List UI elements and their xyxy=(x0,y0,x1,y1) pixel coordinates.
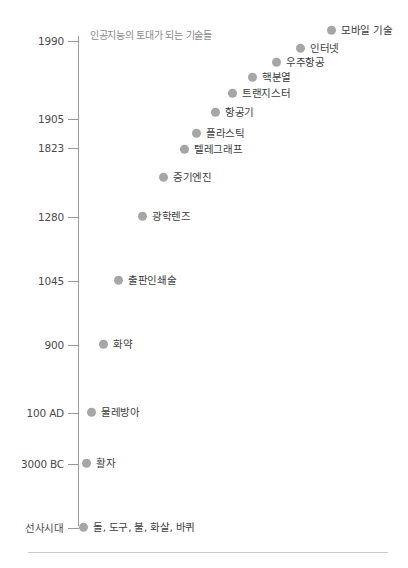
y-axis-tick-mark xyxy=(68,413,79,414)
data-point-label: 활자 xyxy=(96,458,115,469)
data-point-label: 플라스틱 xyxy=(206,128,245,139)
y-axis-tick-mark xyxy=(68,217,79,218)
data-point-marker-icon xyxy=(114,276,123,285)
data-point-marker-icon xyxy=(211,108,220,117)
y-axis-tick-mark xyxy=(68,281,79,282)
y-axis-tick-label: 1823 xyxy=(38,143,64,154)
data-point-label: 모바일 기술 xyxy=(341,25,393,36)
data-point-label: 텔레그래프 xyxy=(194,144,243,155)
data-point-marker-icon xyxy=(82,459,91,468)
data-point-marker-icon xyxy=(138,212,147,221)
data-point-marker-icon xyxy=(192,129,201,138)
data-point[interactable]: 플라스틱 xyxy=(192,128,245,139)
data-point[interactable]: 증기엔진 xyxy=(159,172,212,183)
data-point-marker-icon xyxy=(272,58,281,67)
data-point[interactable]: 트랜지스터 xyxy=(228,88,291,99)
data-point-label: 증기엔진 xyxy=(173,172,212,183)
data-point-marker-icon xyxy=(99,340,108,349)
y-axis-tick-mark xyxy=(68,41,79,42)
y-axis-tick-mark xyxy=(68,148,79,149)
data-point-marker-icon xyxy=(180,145,189,154)
data-point[interactable]: 광학렌즈 xyxy=(138,211,191,222)
data-point-label: 화약 xyxy=(113,339,132,350)
technology-timeline-chart: 인공지능의 토대가 되는 기술들 19901905182312801045900… xyxy=(0,0,408,568)
data-point[interactable]: 핵분열 xyxy=(248,72,291,83)
data-point-marker-icon xyxy=(248,73,257,82)
data-point-marker-icon xyxy=(228,89,237,98)
data-point-label: 항공기 xyxy=(225,107,254,118)
footer-divider xyxy=(28,552,388,553)
y-axis-tick-label: 1045 xyxy=(38,276,64,287)
y-axis-tick-label: 선사시대 xyxy=(25,523,64,534)
data-point[interactable]: 모바일 기술 xyxy=(327,25,393,36)
data-point-label: 광학렌즈 xyxy=(152,211,191,222)
y-axis-tick-mark xyxy=(68,119,79,120)
y-axis-tick-mark xyxy=(68,528,79,529)
data-point-label: 핵분열 xyxy=(262,72,291,83)
y-axis-tick-label: 1905 xyxy=(38,114,64,125)
y-axis-tick-label: 3000 BC xyxy=(21,459,64,470)
data-point-marker-icon xyxy=(296,44,305,53)
data-point-marker-icon xyxy=(87,408,96,417)
y-axis-tick-label: 100 AD xyxy=(27,408,64,419)
y-axis-tick-mark xyxy=(68,345,79,346)
data-point[interactable]: 활자 xyxy=(82,458,115,469)
data-point[interactable]: 우주항공 xyxy=(272,57,325,68)
y-axis-tick-label: 900 xyxy=(45,340,64,351)
data-point[interactable]: 화약 xyxy=(99,339,132,350)
data-point[interactable]: 돌, 도구, 불, 화살, 바퀴 xyxy=(79,522,195,533)
data-point-marker-icon xyxy=(79,523,88,532)
data-point[interactable]: 물레방아 xyxy=(87,407,140,418)
data-point-label: 물레방아 xyxy=(101,407,140,418)
data-point[interactable]: 출판인쇄술 xyxy=(114,275,177,286)
chart-subtitle: 인공지능의 토대가 되는 기술들 xyxy=(90,31,212,41)
y-axis-tick-mark xyxy=(68,464,79,465)
data-point-label: 돌, 도구, 불, 화살, 바퀴 xyxy=(93,522,195,533)
data-point-marker-icon xyxy=(159,173,168,182)
data-point-label: 인터넷 xyxy=(310,43,339,54)
y-axis-tick-label: 1990 xyxy=(38,36,64,47)
data-point[interactable]: 텔레그래프 xyxy=(180,144,243,155)
y-axis-tick-label: 1280 xyxy=(38,212,64,223)
data-point-label: 트랜지스터 xyxy=(242,88,291,99)
data-point[interactable]: 항공기 xyxy=(211,107,254,118)
data-point-label: 우주항공 xyxy=(286,57,325,68)
data-point-marker-icon xyxy=(327,26,336,35)
data-point[interactable]: 인터넷 xyxy=(296,43,339,54)
data-point-label: 출판인쇄술 xyxy=(128,275,177,286)
